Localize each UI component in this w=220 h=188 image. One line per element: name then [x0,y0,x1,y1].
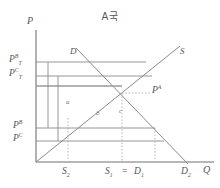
qty-label-d1-base: D [134,166,141,176]
price-label-ptb-sub: T [18,60,21,66]
qty-label-s2-sub: 2 [67,172,70,178]
plot-canvas [0,0,220,188]
qty-label-d2-sub: 2 [188,172,191,178]
qty-label-s2: S2 [62,167,70,177]
price-label-ptb: PBT [9,55,22,65]
supply-curve-label: S [180,47,185,56]
y-axis-label: P [27,16,33,26]
price-label-pc: PC [13,134,23,144]
price-label-pb-sup: B [19,119,23,125]
qty-label-d1: D1 [134,167,144,177]
demand-curve [76,48,188,164]
area-label-c: c [119,108,122,115]
area-label-a: a [66,99,70,106]
qty-label-d2: D2 [181,167,191,177]
qty-label-equals: = [122,167,127,177]
qty-label-d1-sub: 1 [141,172,144,178]
supply-demand-figure: A국 P Q D S PBT PCT [0,0,220,188]
price-label-ptc-sub: T [19,74,22,80]
qty-label-d2-base: D [181,166,188,176]
qty-label-s1-sub: 1 [110,172,113,178]
demand-curve-label: D [70,47,77,56]
price-label-pa-sup: A [158,84,162,90]
price-label-ptc-sup: C [15,67,19,73]
price-label-ptc: PCT [9,69,22,79]
price-label-ptb-sup: B [15,53,19,59]
price-label-pc-sup: C [19,132,23,138]
qty-label-s1: S1 [105,167,113,177]
x-axis-label: Q [203,165,210,175]
price-label-pa: PA [152,86,161,96]
area-label-b: b [96,110,100,117]
price-label-pb: PB [13,121,22,131]
